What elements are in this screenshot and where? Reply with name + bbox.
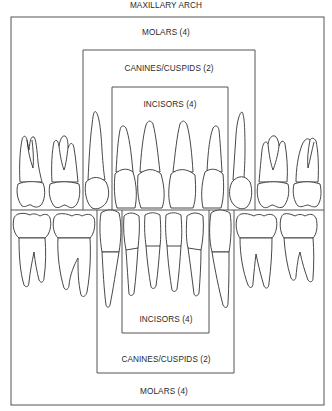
teeth-illustration — [0, 0, 332, 411]
upper-central-incisor-left — [138, 121, 165, 208]
upper-molar-left-inner — [49, 136, 80, 208]
upper-molar-left-outer — [17, 136, 45, 207]
lower-molar-right-outer — [280, 214, 317, 282]
upper-lateral-incisor-right — [202, 126, 224, 208]
lower-molar-left-outer — [13, 213, 51, 286]
upper-molars-label: MOLARS (4) — [142, 28, 190, 37]
molars-outer-box — [11, 17, 324, 405]
lower-canine-right — [210, 210, 231, 307]
lower-lateral-incisor-left — [124, 213, 140, 295]
lower-canine-left — [100, 210, 121, 307]
lower-central-incisor-right — [166, 213, 182, 292]
lower-lateral-incisor-right — [186, 213, 203, 296]
upper-canine-right — [230, 112, 252, 209]
upper-canine-left — [85, 112, 108, 209]
lower-molars-label: MOLARS (4) — [140, 387, 188, 396]
maxillary-arch-title: MAXILLARY ARCH — [130, 1, 202, 10]
upper-incisors-label: INCISORS (4) — [143, 100, 196, 109]
lower-central-incisor-left — [145, 213, 161, 289]
lower-canines-label: CANINES/CUSPIDS (2) — [121, 355, 210, 364]
upper-lateral-incisor-left — [114, 126, 136, 208]
upper-canines-label: CANINES/CUSPIDS (2) — [124, 64, 213, 73]
upper-molar-right-outer — [293, 138, 321, 207]
lower-incisors-label: INCISORS (4) — [139, 315, 192, 324]
dental-arch-diagram: MAXILLARY ARCH MOLARS (4) CANINES/CUSPID… — [0, 0, 332, 411]
lower-molar-left-inner — [53, 214, 95, 297]
upper-central-incisor-right — [169, 121, 196, 208]
upper-molar-right-inner — [257, 136, 289, 208]
lower-molar-right-inner — [236, 214, 277, 289]
